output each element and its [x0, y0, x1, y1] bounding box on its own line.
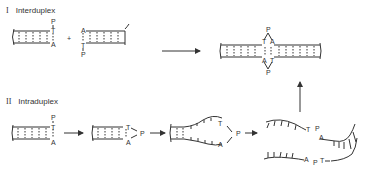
base-labels: PTA + ATP TA AT PP PTA TAP TAP TPA APT [51, 18, 325, 166]
svg-text:P: P [51, 18, 56, 25]
svg-text:A: A [51, 139, 56, 146]
svg-text:P: P [140, 130, 145, 137]
svg-text:P: P [51, 114, 56, 121]
duplex-left [13, 25, 54, 45]
svg-text:P: P [236, 130, 241, 137]
svg-text:T: T [270, 57, 275, 64]
plus-sign: + [67, 35, 71, 42]
svg-text:T: T [320, 157, 325, 164]
svg-text:T: T [262, 38, 267, 45]
svg-text:T: T [81, 42, 86, 49]
diagram-canvas: PTA + ATP TA AT PP PTA TAP TAP TPA APT [0, 0, 365, 174]
svg-text:P: P [81, 51, 86, 58]
svg-text:A: A [126, 139, 131, 146]
svg-text:T: T [306, 126, 311, 133]
svg-text:T: T [51, 124, 56, 131]
svg-text:P: P [266, 69, 271, 76]
svg-text:A: A [262, 57, 267, 64]
strands-separated [264, 120, 357, 161]
svg-text:T: T [51, 27, 56, 34]
svg-text:T: T [218, 120, 223, 127]
svg-text:A: A [81, 27, 86, 34]
svg-text:P: P [313, 159, 318, 166]
duplex-step1 [12, 121, 53, 141]
svg-text:A: A [270, 38, 275, 45]
duplex-step3-open [170, 116, 232, 145]
svg-text:P: P [266, 26, 271, 33]
svg-text:A: A [218, 141, 223, 148]
svg-text:T: T [126, 124, 131, 131]
svg-text:A: A [51, 41, 56, 48]
svg-text:A: A [304, 156, 309, 163]
svg-text:P: P [315, 125, 320, 132]
duplex-right [83, 24, 129, 51]
svg-text:A: A [319, 134, 324, 141]
